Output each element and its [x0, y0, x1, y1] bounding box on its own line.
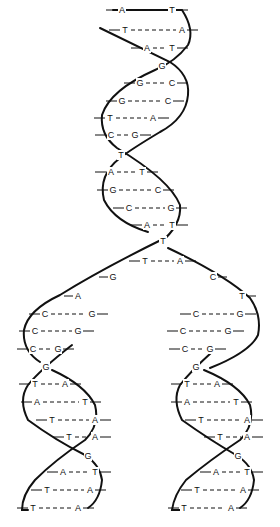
parent-base-a: A — [144, 220, 150, 230]
right-daughter-base-t: T — [194, 485, 200, 495]
right-daughter-base-g: G — [236, 309, 243, 319]
left-daughter-base-c: C — [30, 344, 37, 354]
parent-base-a: A — [119, 5, 125, 15]
left-daughter-base-g: G — [88, 309, 95, 319]
right-daughter-base-a: A — [244, 432, 250, 442]
left-daughter-base-g: G — [84, 451, 91, 461]
right-daughter-base-c: C — [193, 309, 200, 319]
left-daughter-base-c: C — [42, 309, 49, 319]
parent-base-g: G — [109, 185, 116, 195]
parent-base-a: A — [108, 167, 114, 177]
right-daughter-base-g: G — [206, 344, 213, 354]
left-daughter-base-a: A — [87, 485, 93, 495]
fork-left-base: G — [109, 272, 116, 282]
right-daughter-base-g: G — [234, 451, 241, 461]
parent-base-a: A — [179, 25, 185, 35]
left-daughter-base-g: G — [42, 362, 49, 372]
parent-base-t: T — [139, 167, 145, 177]
right-daughter-base-t: T — [184, 379, 190, 389]
left-daughter-base-a: A — [92, 432, 98, 442]
right-daughter-base-c: C — [182, 344, 189, 354]
parent-base-t: T — [169, 220, 175, 230]
right-daughter-base-a: A — [240, 485, 246, 495]
parent-base-t: T — [122, 25, 128, 35]
left-daughter-base-a: A — [34, 397, 40, 407]
parent-base-c: C — [126, 203, 133, 213]
right-daughter-base-t: T — [217, 432, 223, 442]
right-daughter-base-a: A — [184, 397, 190, 407]
right-daughter-base-t: T — [181, 503, 187, 513]
right-daughter-base-t: T — [244, 467, 250, 477]
parent-base-c: C — [108, 130, 115, 140]
parent-base-a: A — [144, 43, 150, 53]
left-daughter-base-t: T — [32, 379, 38, 389]
left-daughter-base-t: T — [49, 415, 55, 425]
left-daughter-base-g: G — [54, 344, 61, 354]
right-daughter-base-t: T — [198, 415, 204, 425]
parent-base-t: T — [169, 5, 175, 15]
parent-base-c: C — [169, 78, 176, 88]
left-daughter-base-a: A — [92, 415, 98, 425]
parent-base-c: C — [165, 96, 172, 106]
base-pairs-layer: ATTAATGGCGCTACGTATGCCGATCGCGCGGTAATTATAG… — [17, 5, 263, 513]
right-daughter-base-g: G — [192, 362, 199, 372]
right-daughter-base-a: A — [214, 379, 220, 389]
parent-base-g: G — [167, 203, 174, 213]
fork-right-base: C — [210, 272, 217, 282]
parent-base-g: G — [131, 130, 138, 140]
parent-base-g: G — [136, 78, 143, 88]
dna-replication-diagram: ATTAATGGCGCTACGTATGCCGATCGCGCGGTAATTATAG… — [0, 0, 280, 527]
left-daughter-base-t: T — [66, 432, 72, 442]
fork-right-base: T — [239, 291, 245, 301]
left-daughter-base-g: G — [74, 326, 81, 336]
parent-base-t: T — [118, 150, 124, 160]
right-daughter-base-t: T — [233, 397, 239, 407]
parent-base-g: G — [158, 61, 165, 71]
left-daughter-base-t: T — [82, 397, 88, 407]
fork-left-base: A — [75, 291, 81, 301]
left-daughter-base-t: T — [30, 503, 36, 513]
right-daughter-base-c: C — [180, 326, 187, 336]
fork-left-base-a: A — [177, 256, 183, 266]
right-daughter-base-a: A — [244, 415, 250, 425]
left-daughter-base-c: C — [32, 326, 39, 336]
right-daughter-base-a: A — [228, 503, 234, 513]
fork-junction-base: T — [160, 236, 166, 246]
left-daughter-base-t: T — [44, 485, 50, 495]
parent-base-t: T — [107, 113, 113, 123]
right-daughter-base-a: A — [213, 467, 219, 477]
left-daughter-base-t: T — [92, 467, 98, 477]
parent-base-g: G — [118, 96, 125, 106]
left-daughter-base-a: A — [75, 503, 81, 513]
left-daughter-strand-a — [23, 345, 102, 508]
parent-base-a: A — [150, 113, 156, 123]
left-daughter-base-a: A — [60, 467, 66, 477]
parent-base-t: T — [169, 43, 175, 53]
left-daughter-base-a: A — [62, 379, 68, 389]
fork-left-base-t: T — [142, 256, 148, 266]
right-daughter-base-g: G — [224, 326, 231, 336]
parent-base-c: C — [155, 185, 162, 195]
